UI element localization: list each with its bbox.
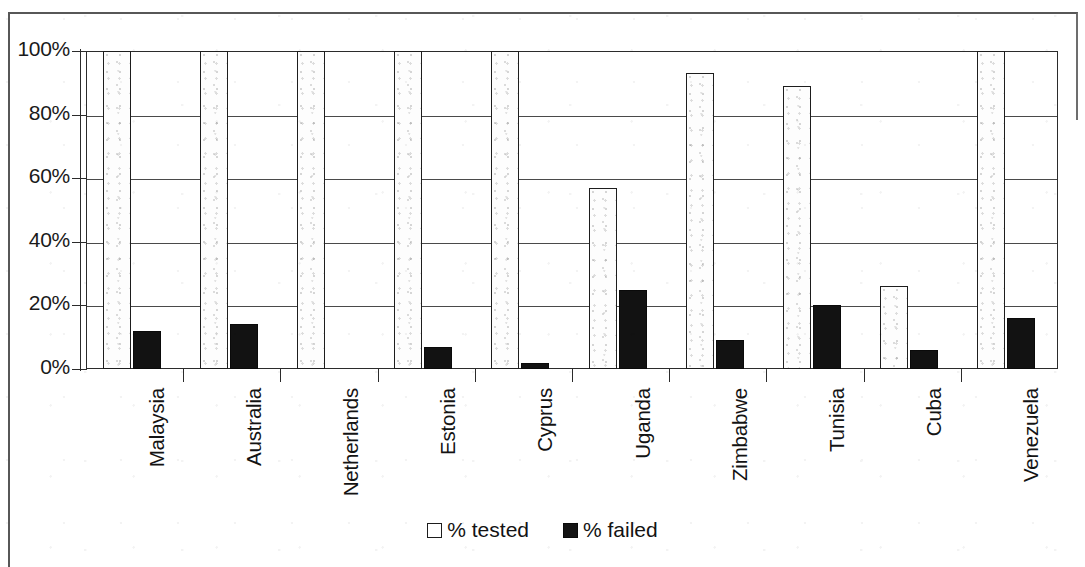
legend-label-tested: % tested <box>447 518 529 542</box>
y-axis-label: 80% <box>8 101 70 125</box>
x-axis-tick <box>378 369 379 382</box>
legend-item-failed[interactable]: % failed <box>563 518 658 542</box>
x-axis-tick <box>864 369 865 382</box>
bar-tested[interactable] <box>686 73 714 369</box>
bar-tested[interactable] <box>977 51 1005 369</box>
bar-tested[interactable] <box>589 188 617 369</box>
bar-failed[interactable] <box>521 363 549 369</box>
bar-tested[interactable] <box>297 51 325 369</box>
x-axis-tick <box>572 369 573 382</box>
bar-group <box>961 51 1058 369</box>
bar-tested[interactable] <box>880 286 908 369</box>
bars-layer <box>86 51 1058 369</box>
x-axis-tick <box>766 369 767 382</box>
bar-group <box>669 51 766 369</box>
x-axis-label: Venezuela <box>1019 388 1043 482</box>
legend-item-tested[interactable]: % tested <box>427 518 529 542</box>
chart-legend: % tested % failed <box>0 518 1085 542</box>
bar-failed[interactable] <box>910 350 938 369</box>
bar-group <box>766 51 863 369</box>
border-mask <box>1065 120 1085 567</box>
legend-label-failed: % failed <box>583 518 658 542</box>
bar-group <box>378 51 475 369</box>
bar-tested[interactable] <box>200 51 228 369</box>
x-axis-tick <box>183 369 184 382</box>
bar-tested[interactable] <box>394 51 422 369</box>
bar-group <box>864 51 961 369</box>
bar-group <box>572 51 669 369</box>
x-axis-label: Netherlands <box>339 388 363 496</box>
y-axis-label: 60% <box>8 164 70 188</box>
bar-failed[interactable] <box>716 340 744 369</box>
bar-group <box>280 51 377 369</box>
x-axis-tick <box>475 369 476 382</box>
y-axis-line <box>80 49 81 371</box>
y-axis-label: 20% <box>8 291 70 315</box>
bar-failed[interactable] <box>424 347 452 369</box>
chart-screenshot: 0%20%40%60%80%100% MalaysiaAustraliaNeth… <box>0 0 1085 567</box>
bar-tested[interactable] <box>103 51 131 369</box>
x-axis-label: Cuba <box>922 388 946 436</box>
bar-failed[interactable] <box>619 290 647 370</box>
x-axis-label: Estonia <box>436 388 460 455</box>
x-axis-tick <box>669 369 670 382</box>
bar-tested[interactable] <box>783 86 811 369</box>
x-axis-label: Australia <box>242 388 266 466</box>
bar-failed[interactable] <box>813 305 841 369</box>
bar-failed[interactable] <box>230 324 258 369</box>
bar-failed[interactable] <box>133 331 161 369</box>
x-axis-tick <box>961 369 962 382</box>
legend-swatch-failed-icon <box>563 523 578 538</box>
x-axis-label: Zimbabwe <box>728 388 752 481</box>
bar-group <box>183 51 280 369</box>
bar-tested[interactable] <box>491 51 519 369</box>
bar-failed[interactable] <box>1007 318 1035 369</box>
x-axis-tick <box>280 369 281 382</box>
bar-group <box>475 51 572 369</box>
x-axis-label: Tunisia <box>825 388 849 452</box>
y-axis-label: 100% <box>8 37 70 61</box>
x-axis-label: Cyprus <box>533 388 557 452</box>
x-axis-label: Malaysia <box>145 388 169 467</box>
y-axis-label: 0% <box>8 355 70 379</box>
y-axis-label: 40% <box>8 228 70 252</box>
x-axis-label: Uganda <box>631 388 655 459</box>
legend-swatch-tested-icon <box>427 523 442 538</box>
bar-group <box>86 51 183 369</box>
